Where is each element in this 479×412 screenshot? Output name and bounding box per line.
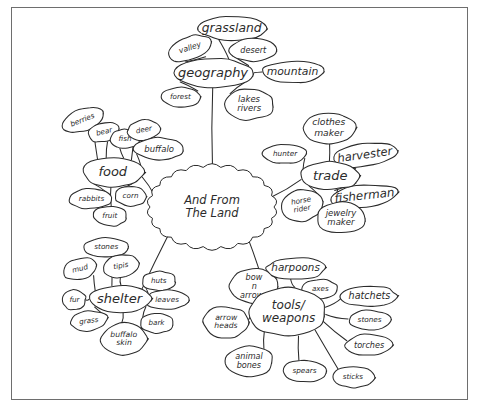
node-arrow[interactable]: arrowheads	[203, 307, 250, 338]
node-stones[interactable]: stones	[349, 310, 391, 330]
node-label: maker	[327, 217, 355, 227]
node-label: mountain	[267, 65, 319, 78]
node-torches[interactable]: torches	[345, 334, 394, 355]
node-label: bones	[237, 360, 262, 370]
node-label: stones	[358, 315, 382, 324]
edge-tools-weapons-child-6	[323, 321, 347, 340]
node-jewelry[interactable]: jewelrymaker	[318, 202, 365, 233]
node-clothes[interactable]: clothesmaker	[303, 113, 357, 144]
node-label: rivers	[237, 103, 262, 113]
edge-tools-weapons-child-1	[291, 279, 295, 288]
edge-shelter-child-1	[94, 276, 96, 291]
node-label: hatchets	[349, 290, 391, 301]
edge-geography-child-0	[218, 39, 229, 59]
node-label: sticks	[343, 372, 364, 381]
node-hatchets[interactable]: hatchets	[340, 286, 399, 306]
edge-food-child-1	[106, 142, 107, 158]
node-label: The Land	[185, 206, 239, 220]
branch-node-geography[interactable]: geography	[174, 58, 254, 87]
edge-tools-weapons-child-5	[326, 314, 348, 319]
node-label: axes	[312, 284, 329, 293]
node-huts[interactable]: huts	[143, 271, 176, 291]
edge-shelter-child-4	[86, 299, 89, 300]
node-label: fruit	[102, 211, 118, 220]
center-node[interactable]: And FromThe Land	[147, 164, 276, 251]
node-corn[interactable]: corn	[115, 187, 146, 207]
edge-food-child-2	[120, 148, 124, 158]
node-label: weapons	[262, 311, 315, 325]
node-label: maker	[314, 127, 345, 138]
node-label: heads	[214, 321, 237, 330]
branch-node-tools-weapons[interactable]: tools/weapons	[249, 287, 324, 336]
node-label: desert	[240, 45, 267, 55]
edge-tools-weapons-child-3	[325, 298, 341, 307]
node-label: harpoons	[271, 261, 320, 273]
branch-node-food[interactable]: food	[83, 158, 146, 188]
node-desert[interactable]: desert	[229, 38, 277, 61]
node-label: shelter	[97, 291, 144, 306]
node-lakes[interactable]: lakesrivers	[225, 89, 274, 120]
node-label: grassland	[202, 21, 262, 35]
node-label: geography	[178, 65, 248, 80]
node-harpoons[interactable]: harpoons	[266, 258, 327, 279]
node-label: buffalo	[144, 144, 174, 154]
node-animal[interactable]: animalbones	[225, 346, 272, 377]
node-label: stones	[94, 242, 118, 251]
edge-tools-weapons-child-8	[298, 336, 299, 360]
node-label: leaves	[155, 295, 179, 304]
node-sticks[interactable]: sticks	[333, 367, 376, 388]
node-label: spears	[292, 366, 316, 375]
node-label: hunter	[273, 149, 298, 158]
node-label: huts	[151, 276, 167, 285]
node-fur[interactable]: fur	[62, 290, 86, 310]
edge-center-to-geography	[212, 88, 213, 167]
node-forest[interactable]: forest	[161, 87, 201, 107]
edge-shelter-child-2	[120, 277, 121, 285]
node-stones[interactable]: stones	[84, 237, 129, 256]
node-label: rabbits	[79, 194, 105, 203]
branch-node-shelter[interactable]: shelter	[90, 285, 153, 312]
node-label: forest	[170, 92, 192, 101]
node-spears[interactable]: spears	[283, 360, 326, 381]
node-label: fur	[70, 295, 81, 304]
node-label: tools/	[272, 298, 307, 312]
node-fruit[interactable]: fruit	[93, 206, 126, 226]
node-label: torches	[354, 340, 385, 350]
edge-shelter-child-8	[122, 313, 124, 323]
node-grass[interactable]: grass	[69, 308, 110, 334]
edge-tools-weapons-child-7	[264, 332, 265, 349]
node-label: bark	[148, 318, 165, 327]
node-mountain[interactable]: mountain	[263, 61, 325, 82]
node-bark[interactable]: bark	[141, 313, 173, 333]
node-label: corn	[123, 191, 139, 200]
node-label: trade	[313, 168, 348, 183]
node-hunter[interactable]: hunter	[262, 144, 307, 163]
node-label: food	[98, 164, 127, 179]
node-label: clothes	[312, 116, 345, 127]
nodes-layer: grasslandvalleydesertmountainforestlakes…	[58, 17, 400, 388]
edge-geography-child-3	[254, 72, 262, 73]
node-rabbits[interactable]: rabbits	[69, 188, 111, 208]
node-label: skin	[116, 338, 132, 347]
mind-map-canvas: grasslandvalleydesertmountainforestlakes…	[0, 0, 479, 412]
